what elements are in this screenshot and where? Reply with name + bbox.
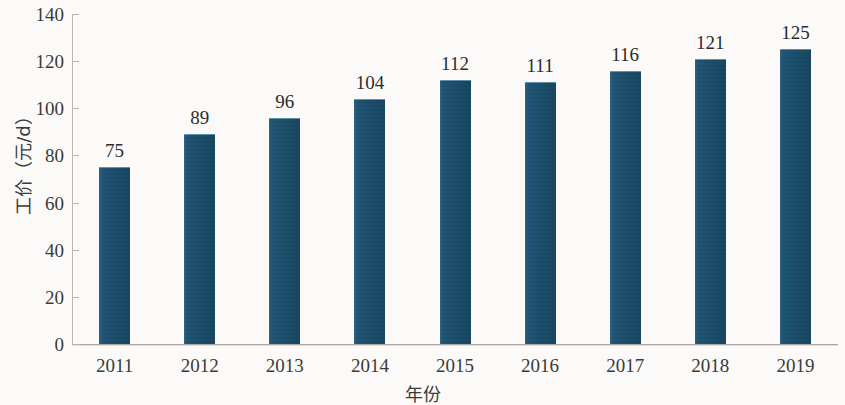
x-axis-tick-label: 2018 <box>665 356 755 375</box>
bar <box>269 118 300 344</box>
bar-value-label: 75 <box>80 141 150 160</box>
bar <box>525 82 556 344</box>
y-axis-line <box>72 14 73 345</box>
bar <box>99 167 130 344</box>
y-axis-tick-label: 140 <box>18 5 64 24</box>
y-axis-tick <box>72 108 79 109</box>
bar <box>184 134 215 344</box>
y-axis-tick <box>72 155 79 156</box>
x-axis-tick-label: 2015 <box>410 356 500 375</box>
y-axis-tick-label: 60 <box>18 194 64 213</box>
y-axis-tick <box>72 297 79 298</box>
bar <box>440 80 471 344</box>
bar-value-label: 111 <box>505 56 575 75</box>
x-axis-tick-label: 2019 <box>750 356 840 375</box>
y-axis-tick-label: 120 <box>18 52 64 71</box>
bar-value-label: 125 <box>760 23 830 42</box>
y-axis-tick-label: 80 <box>18 146 64 165</box>
y-axis-tick <box>72 250 79 251</box>
x-axis-tick-label: 2011 <box>70 356 160 375</box>
bar-value-label: 116 <box>590 45 660 64</box>
y-axis-tick-label: 40 <box>18 241 64 260</box>
x-axis-tick-label: 2017 <box>580 356 670 375</box>
y-axis-tick <box>72 14 79 15</box>
bar-value-label: 104 <box>335 73 405 92</box>
x-axis-tick-label: 2014 <box>325 356 415 375</box>
x-axis-tick-label: 2016 <box>495 356 585 375</box>
bar-value-label: 112 <box>420 54 490 73</box>
bar <box>354 99 385 344</box>
x-axis-line <box>72 344 838 345</box>
y-axis-tick <box>72 344 79 345</box>
bar-value-label: 89 <box>165 108 235 127</box>
bar <box>695 59 726 344</box>
y-axis-tick-label: 20 <box>18 288 64 307</box>
x-axis-tick-label: 2013 <box>240 356 330 375</box>
bar-value-label: 121 <box>675 33 745 52</box>
y-axis-tick-label: 100 <box>18 99 64 118</box>
x-axis-title: 年份 <box>0 380 845 405</box>
bar-value-label: 96 <box>250 92 320 111</box>
y-axis-tick <box>72 203 79 204</box>
y-axis-tick <box>72 61 79 62</box>
y-axis-tick-label: 0 <box>18 335 64 354</box>
x-axis-tick-label: 2012 <box>155 356 245 375</box>
bar <box>610 71 641 344</box>
bar <box>780 49 811 344</box>
bar-chart: 工价（元/d） 020406080100120140 7589961041121… <box>0 0 845 405</box>
